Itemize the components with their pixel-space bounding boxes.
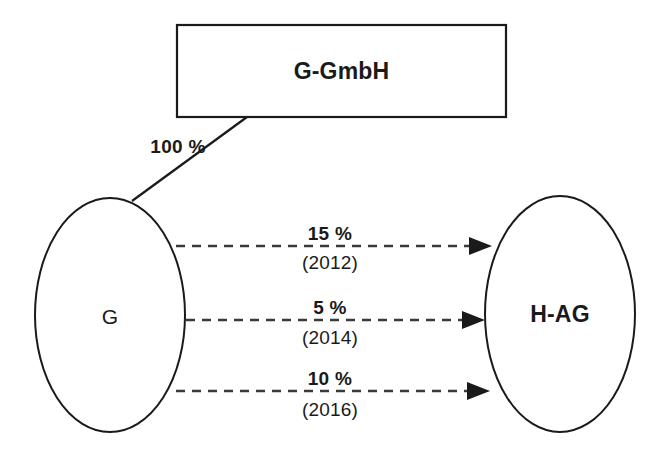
edge-label-15-percent: 15 % — [255, 224, 405, 243]
diagram-canvas: G-GmbH G H-AG 100 % 15 % (2012) 5 % (201… — [0, 0, 664, 456]
node-label-h-ag: H-AG — [485, 303, 635, 326]
edge-label-15-percent-year: (2012) — [255, 253, 405, 272]
node-label-g: G — [35, 306, 185, 327]
arrowhead-10-percent — [467, 382, 490, 400]
arrowhead-5-percent — [462, 311, 485, 329]
node-label-g-gmbh: G-GmbH — [177, 60, 506, 83]
edge-label-5-percent: 5 % — [255, 298, 405, 317]
edge-label-10-percent: 10 % — [255, 369, 405, 388]
edge-label-10-percent-year: (2016) — [255, 400, 405, 419]
arrowhead-15-percent — [469, 237, 492, 255]
edge-label-100-percent: 100 % — [103, 137, 253, 156]
connector-100-percent[interactable] — [132, 117, 247, 201]
edge-label-5-percent-year: (2014) — [255, 328, 405, 347]
